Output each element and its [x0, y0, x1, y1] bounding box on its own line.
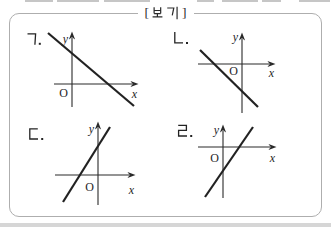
textbook-figure: [ ] y x O	[0, 0, 331, 227]
y-axis-label: y	[62, 32, 69, 46]
x-axis-label: x	[268, 66, 275, 80]
title-bracket-close: ]	[182, 4, 187, 22]
graph-cell-rieul: y x O	[172, 118, 307, 213]
origin-label: O	[229, 64, 238, 78]
origin-label: O	[85, 180, 94, 194]
cropped-text-artifact	[222, 0, 258, 2]
x-axis-label: x	[128, 183, 135, 197]
cropped-text-artifact	[25, 0, 53, 2]
graph-cell-nieun: y x O	[172, 28, 304, 116]
function-line	[200, 50, 258, 107]
syllable-bo-glyph	[153, 7, 163, 17]
origin-label: O	[210, 151, 219, 165]
page-edge-band	[0, 223, 331, 227]
y-axis-label: y	[88, 122, 95, 136]
graph-cell-giyeok: y x O	[18, 28, 148, 112]
graph-cell-digeut: y x O	[18, 118, 148, 210]
cropped-text-artifact	[299, 0, 330, 2]
y-axis-label: y	[232, 30, 239, 44]
graph-nieun: y x O	[172, 28, 304, 116]
cropped-text-artifact	[104, 0, 150, 2]
cropped-text-artifact	[57, 0, 99, 2]
rieul-label-icon	[177, 124, 195, 139]
y-axis-label: y	[213, 123, 220, 137]
x-axis-label: x	[131, 87, 138, 101]
origin-label: O	[59, 86, 68, 100]
giyeok-label-icon	[26, 32, 44, 47]
digeut-label-icon	[28, 127, 46, 142]
title-bracket-open: [	[145, 4, 150, 22]
cropped-text-artifact	[262, 0, 281, 2]
bogi-title-glyph	[152, 6, 179, 20]
syllable-gi-glyph	[167, 7, 177, 19]
options-box-title: [ ]	[138, 4, 194, 22]
cropped-text-artifact	[197, 0, 214, 2]
x-axis-label: x	[269, 151, 276, 165]
nieun-label-icon	[173, 31, 191, 46]
